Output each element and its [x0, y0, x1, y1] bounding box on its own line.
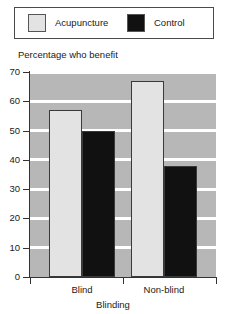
x-axis-tick	[30, 278, 31, 284]
y-axis-tick-label: 0	[15, 272, 20, 282]
y-axis-tick	[23, 189, 29, 190]
bar-blind-acupuncture	[49, 110, 82, 277]
y-axis-tick-label: 50	[9, 126, 20, 136]
x-axis-tick	[123, 278, 124, 284]
y-axis-tick	[23, 277, 29, 278]
y-axis-tick-label: 20	[9, 213, 20, 223]
y-axis-title: Percentage who benefit	[18, 49, 118, 60]
legend-entry-control: Control	[127, 8, 185, 38]
y-axis-tick-label: 70	[9, 67, 20, 77]
x-axis-category-label: Non-blind	[124, 285, 204, 295]
y-axis-tick	[23, 131, 29, 132]
bar-non-blind-control	[164, 166, 197, 277]
legend-label-acupuncture: Acupuncture	[55, 18, 108, 28]
y-axis-line	[29, 71, 30, 278]
legend-entry-acupuncture: Acupuncture	[28, 8, 108, 38]
y-axis-tick-label: 10	[9, 243, 20, 253]
gridline	[30, 100, 216, 103]
plot-area	[30, 72, 216, 277]
chart-legend: Acupuncture Control	[14, 7, 214, 39]
legend-swatch-control	[127, 14, 145, 32]
y-axis-tick	[23, 101, 29, 102]
x-axis-tick	[216, 278, 217, 284]
y-axis-tick-label: 60	[9, 96, 20, 106]
y-axis-tick	[23, 72, 29, 73]
y-axis-tick-label: 40	[9, 155, 20, 165]
bar-non-blind-acupuncture	[131, 81, 164, 277]
y-axis-tick-label: 30	[9, 184, 20, 194]
gridline	[30, 72, 216, 74]
legend-label-control: Control	[154, 18, 185, 28]
x-axis-category-label: Blind	[42, 285, 122, 295]
y-axis-tick	[23, 218, 29, 219]
legend-swatch-acupuncture	[28, 14, 46, 32]
bar-blind-control	[82, 131, 115, 277]
y-axis-tick	[23, 160, 29, 161]
x-axis-title: Blinding	[0, 300, 226, 310]
y-axis-tick	[23, 248, 29, 249]
